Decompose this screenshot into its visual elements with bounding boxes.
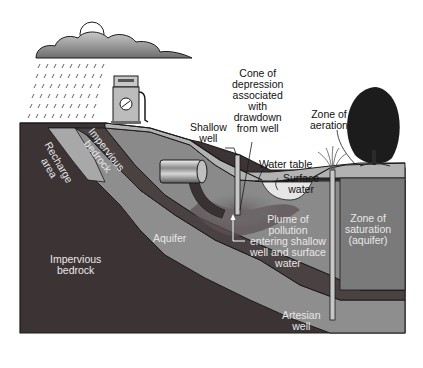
zone-of-saturation-label: Zone of saturation (aquifer): [345, 213, 391, 246]
underground-storage-tank: [160, 160, 207, 183]
plume-of-pollution-label: Plume of pollution entering shallow well…: [250, 214, 326, 269]
shallow-well-label: Shallow well: [190, 122, 227, 144]
water-table-label: Water table: [259, 159, 312, 170]
shallow-well: [235, 155, 240, 215]
artesian-well: [330, 170, 335, 320]
gas-pump: [111, 76, 148, 124]
impervious-bedrock-lower-label: Impervious bedrock: [50, 254, 101, 276]
cone-of-depression-label: Cone of depression associated with drawd…: [232, 68, 283, 134]
zone-of-aeration-label: Zone of aeration: [310, 109, 348, 131]
rain: [28, 64, 104, 118]
artesian-well-label: Artesian well: [282, 310, 321, 332]
tree: [347, 87, 400, 166]
rain-cloud: [36, 22, 192, 58]
aquifer-label: Aquifer: [153, 233, 186, 244]
surface-water-label: Surface water: [283, 173, 319, 195]
